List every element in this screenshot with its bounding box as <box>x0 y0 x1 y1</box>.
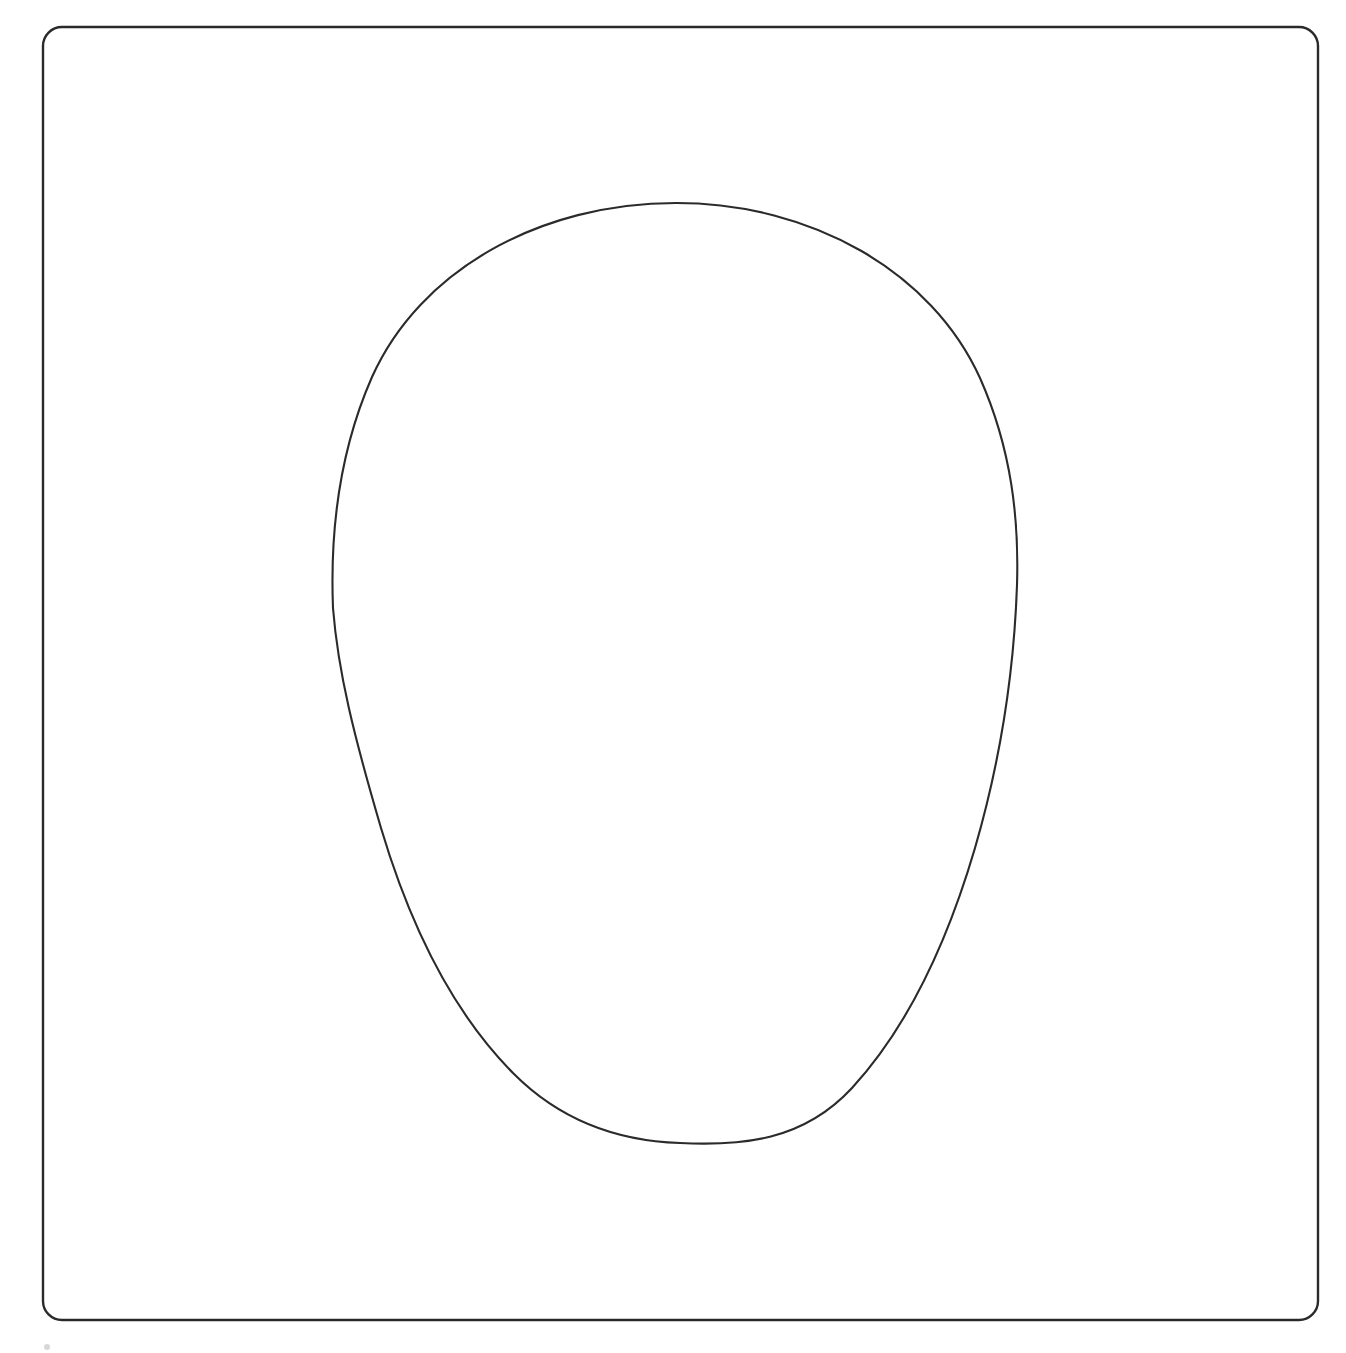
drawing-canvas <box>0 0 1346 1353</box>
egg-outline <box>332 203 1017 1144</box>
rounded-rectangle-border <box>43 27 1318 1320</box>
bottom-left-speck <box>44 1344 50 1350</box>
drawing-surface <box>0 0 1346 1353</box>
